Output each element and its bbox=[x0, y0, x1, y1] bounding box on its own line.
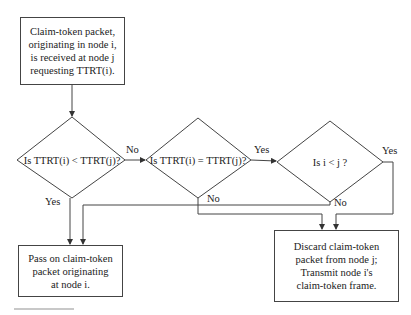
label-d3-no: No bbox=[334, 197, 347, 208]
decision-i-less-j: Is i < j ? bbox=[313, 157, 348, 168]
label-d1-no: No bbox=[126, 144, 139, 155]
start-line-1: Claim-token packet, bbox=[28, 25, 116, 38]
start-box: Claim-token packet, originating in node … bbox=[20, 17, 125, 85]
decision-ttrt-less: Is TTRT(i) < TTRT(j)? bbox=[24, 155, 121, 166]
pass-on-box: Pass on claim-token packet originating a… bbox=[18, 245, 123, 297]
label-d2-no: No bbox=[207, 193, 220, 204]
discard-box: Discard claim-token packet from node j; … bbox=[274, 230, 399, 302]
decision-ttrt-equal: Is TTRT(i) = TTRT(j)? bbox=[150, 155, 247, 166]
label-d1-yes: Yes bbox=[45, 196, 60, 207]
pass-line-3: at node i. bbox=[28, 278, 113, 291]
discard-line-4: claim-token frame. bbox=[294, 279, 379, 292]
figure-caption-remnant bbox=[14, 308, 74, 310]
start-line-4: requesting TTRT(i). bbox=[28, 64, 116, 77]
pass-line-1: Pass on claim-token bbox=[28, 252, 113, 265]
discard-line-1: Discard claim-token bbox=[294, 240, 379, 253]
label-d2-yes: Yes bbox=[254, 144, 269, 155]
start-line-2: originating in node i, bbox=[28, 38, 116, 51]
start-line-3: is received at node j bbox=[28, 51, 116, 64]
discard-line-2: packet from node j; bbox=[294, 253, 379, 266]
discard-line-3: Transmit node i's bbox=[294, 266, 379, 279]
label-d3-yes: Yes bbox=[382, 145, 397, 156]
pass-line-2: packet originating bbox=[28, 265, 113, 278]
